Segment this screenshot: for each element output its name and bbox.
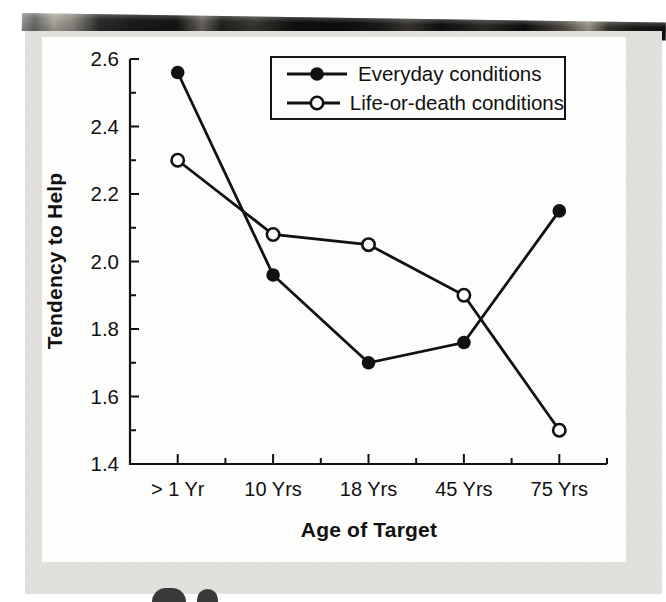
y-axis-tick-label: 2.0 bbox=[91, 250, 120, 273]
x-axis-tick-label: 18 Yrs bbox=[340, 478, 397, 500]
data-point-open-circle bbox=[458, 289, 470, 301]
y-axis-tick-label: 2.2 bbox=[91, 182, 120, 205]
data-point-filled-circle bbox=[266, 268, 280, 282]
y-axis-tick-label: 1.4 bbox=[91, 452, 120, 475]
open-circle-marker-icon bbox=[286, 93, 340, 113]
x-axis-tick-label: 75 Yrs bbox=[531, 478, 588, 500]
y-axis-tick-label: 1.6 bbox=[91, 385, 120, 408]
filled-circle-marker-icon bbox=[286, 64, 348, 84]
y-axis-title: Tendency to Help bbox=[43, 173, 67, 350]
x-axis-tick-label: > 1 Yr bbox=[151, 478, 205, 500]
y-axis-tick-label: 2.4 bbox=[91, 115, 120, 138]
x-axis-tick-label: 45 Yrs bbox=[435, 478, 492, 500]
y-axis-tick-label: 1.8 bbox=[91, 317, 120, 340]
data-point-filled-circle bbox=[553, 204, 567, 218]
data-point-open-circle bbox=[362, 238, 374, 250]
data-point-open-circle bbox=[172, 154, 184, 166]
chart-panel: 1.41.61.82.02.22.42.6> 1 Yr10 Yrs18 Yrs4… bbox=[42, 37, 626, 562]
data-point-filled-circle bbox=[171, 66, 185, 80]
legend-item-everyday: Everyday conditions bbox=[286, 60, 564, 87]
series-line-open-circle bbox=[178, 160, 560, 430]
legend-item-life-or-death: Life-or-death conditions bbox=[286, 89, 564, 116]
data-point-open-circle bbox=[553, 424, 565, 436]
x-axis-title: Age of Target bbox=[301, 518, 437, 542]
data-point-open-circle bbox=[267, 228, 279, 240]
x-axis-tick-label: 10 Yrs bbox=[244, 478, 301, 500]
data-point-filled-circle bbox=[457, 336, 471, 350]
legend-label: Life-or-death conditions bbox=[350, 91, 564, 115]
chart-legend: Everyday conditions Life-or-death condit… bbox=[270, 56, 566, 120]
y-axis-tick-label: 2.6 bbox=[91, 47, 120, 70]
data-point-filled-circle bbox=[362, 356, 376, 370]
legend-label: Everyday conditions bbox=[358, 62, 541, 86]
